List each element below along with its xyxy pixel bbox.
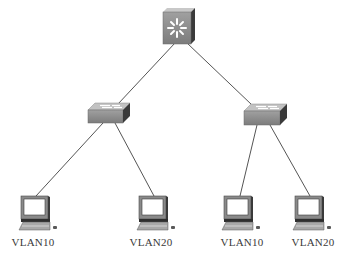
pc-icon[interactable] [137, 196, 175, 230]
network-diagram [0, 0, 344, 258]
pc3-vlan-label: VLAN10 [221, 236, 264, 248]
link-sw1-pc2 [115, 123, 154, 196]
pc4-vlan-label: VLAN20 [292, 236, 335, 248]
link-sw2-pc4 [270, 125, 310, 196]
switch-icon[interactable] [244, 104, 287, 125]
pc-icon[interactable] [293, 196, 331, 230]
link-sw1-pc1 [36, 123, 103, 196]
pc1-vlan-label: VLAN10 [12, 236, 55, 248]
switch-icon[interactable] [88, 103, 130, 123]
pc-icon[interactable] [19, 196, 57, 230]
multilayer-switch-icon[interactable] [163, 8, 195, 44]
link-core-sw1 [118, 43, 175, 104]
pc2-vlan-label: VLAN20 [130, 236, 173, 248]
pc-icon[interactable] [222, 196, 260, 230]
link-core-sw2 [187, 43, 252, 105]
link-sw2-pc3 [240, 125, 257, 196]
